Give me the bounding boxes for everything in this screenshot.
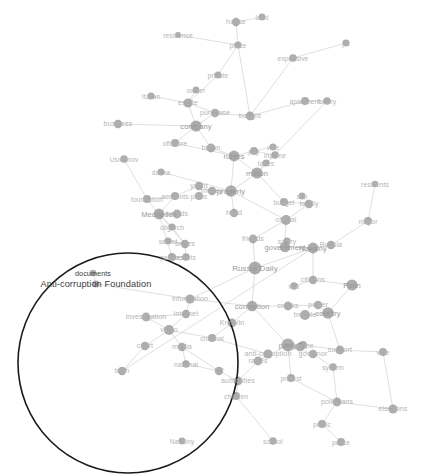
graph-node[interactable] [364, 217, 372, 225]
graph-edge [118, 124, 196, 126]
graph-node[interactable] [329, 363, 337, 371]
graph-node[interactable] [154, 209, 165, 220]
graph-node[interactable] [305, 200, 313, 208]
graph-node[interactable] [182, 310, 190, 318]
graph-node[interactable] [299, 193, 306, 200]
graph-node[interactable] [254, 357, 263, 366]
graph-node[interactable] [327, 241, 335, 249]
graph-node[interactable] [171, 192, 179, 200]
graph-node[interactable] [290, 282, 298, 290]
graph-node[interactable] [182, 253, 190, 261]
graph-node[interactable] [284, 302, 293, 311]
graph-node[interactable] [142, 313, 151, 322]
graph-node[interactable] [90, 270, 96, 276]
graph-node[interactable] [118, 367, 126, 375]
graph-node[interactable] [282, 339, 295, 352]
graph-node[interactable] [93, 281, 100, 288]
graph-edge [212, 338, 268, 354]
graph-node[interactable] [269, 437, 277, 445]
graph-node[interactable] [271, 151, 279, 159]
graph-node[interactable] [183, 98, 192, 107]
graph-node[interactable] [249, 262, 262, 275]
graph-node[interactable] [249, 235, 258, 244]
graph-node[interactable] [232, 18, 240, 26]
graph-edge [331, 221, 368, 245]
graph-node[interactable] [323, 97, 331, 105]
graph-node[interactable] [287, 374, 295, 382]
graph-node[interactable] [301, 97, 309, 105]
graph-node[interactable] [379, 348, 387, 356]
graph-node[interactable] [141, 342, 149, 350]
graph-node[interactable] [262, 159, 269, 166]
graph-node[interactable] [207, 144, 216, 153]
graph-node[interactable] [114, 120, 122, 128]
graph-node[interactable] [337, 438, 345, 446]
graph-node[interactable] [195, 192, 203, 200]
graph-node[interactable] [259, 14, 266, 21]
edges-layer [93, 17, 393, 442]
graph-node[interactable] [388, 404, 397, 413]
graph-node[interactable] [208, 187, 216, 195]
graph-node[interactable] [179, 438, 186, 445]
graph-node[interactable] [175, 32, 181, 38]
graph-node[interactable] [314, 301, 322, 309]
graph-node[interactable] [208, 334, 216, 342]
graph-node[interactable] [185, 294, 194, 303]
graph-node[interactable] [171, 139, 179, 147]
graph-node[interactable] [164, 237, 171, 244]
graph-node[interactable] [168, 253, 176, 261]
graph-node[interactable] [234, 41, 241, 48]
graph-node[interactable] [309, 350, 317, 358]
graph-node[interactable] [195, 182, 203, 190]
graph-node[interactable] [281, 215, 291, 225]
graph-node[interactable] [215, 367, 223, 375]
graph-edge [151, 96, 188, 103]
graph-node[interactable] [280, 198, 288, 206]
graph-node[interactable] [164, 325, 174, 335]
graph-node[interactable] [211, 109, 219, 117]
graph-node[interactable] [214, 71, 221, 78]
graph-node[interactable] [182, 360, 190, 368]
graph-svg [0, 0, 428, 475]
graph-edge [146, 314, 186, 317]
graph-node[interactable] [372, 181, 378, 187]
graph-node[interactable] [270, 144, 277, 151]
graph-node[interactable] [309, 276, 317, 284]
graph-node[interactable] [120, 155, 128, 163]
graph-node[interactable] [333, 398, 342, 407]
graph-node[interactable] [147, 92, 154, 99]
graph-node[interactable] [263, 349, 272, 358]
graph-node[interactable] [234, 377, 243, 386]
graph-edge [215, 113, 250, 116]
graph-node[interactable] [346, 279, 357, 290]
graph-node[interactable] [246, 112, 255, 121]
graph-edge [291, 378, 337, 402]
graph-node[interactable] [336, 346, 345, 355]
graph-node[interactable] [247, 301, 257, 311]
graph-node[interactable] [143, 195, 151, 203]
graph-node[interactable] [280, 242, 290, 252]
graph-node[interactable] [300, 310, 310, 320]
graph-edge [175, 143, 234, 156]
graph-edge [383, 352, 393, 409]
graph-node[interactable] [250, 147, 258, 155]
graph-node[interactable] [173, 210, 182, 219]
graph-node[interactable] [229, 151, 240, 162]
graph-node[interactable] [343, 40, 350, 47]
graph-node[interactable] [251, 167, 262, 178]
graph-node[interactable] [225, 185, 237, 197]
graph-node[interactable] [181, 240, 189, 248]
graph-node[interactable] [322, 307, 334, 319]
graph-node[interactable] [190, 120, 201, 131]
graph-node[interactable] [178, 343, 186, 351]
graph-node[interactable] [299, 341, 307, 349]
graph-node[interactable] [157, 168, 164, 175]
graph-node[interactable] [193, 87, 200, 94]
graph-node[interactable] [308, 243, 319, 254]
graph-node[interactable] [289, 54, 297, 62]
graph-node[interactable] [318, 420, 326, 428]
highlight-circle [18, 253, 238, 473]
graph-node[interactable] [230, 209, 238, 217]
graph-node[interactable] [168, 223, 175, 230]
graph-edge [368, 184, 375, 221]
